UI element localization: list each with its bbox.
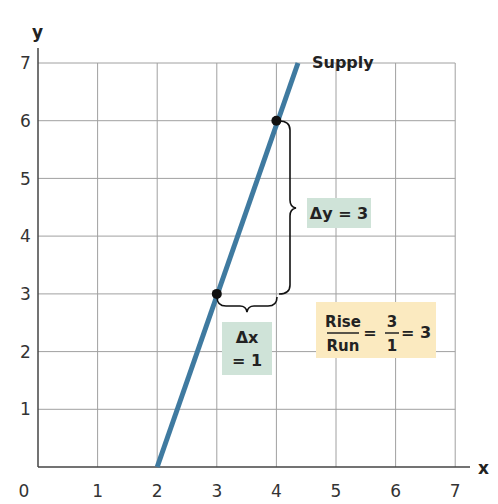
y-tick-4: 4 [20, 226, 31, 246]
y-tick-3: 3 [20, 284, 31, 304]
delta-x-box: Δx = 1 [222, 322, 272, 375]
x-tick-7: 7 [450, 481, 461, 501]
rise-run-box: Rise Run = 3 1 = 3 [316, 302, 436, 358]
supply-label: Supply [312, 53, 374, 72]
y-tick-6: 6 [20, 111, 31, 131]
y-tick-7: 7 [20, 53, 31, 73]
equals-sign: = [363, 323, 376, 342]
numerator: 3 [387, 313, 397, 331]
delta-y-brace [279, 121, 296, 294]
y-tick-2: 2 [20, 342, 31, 362]
y-tick-5: 5 [20, 169, 31, 189]
y-axis-ticks: 7 6 5 4 3 2 1 [20, 53, 31, 419]
chart-svg: 7 6 5 4 3 2 1 0 1 2 3 4 5 6 7 y x Supply… [0, 0, 498, 504]
rise-text: Rise [325, 313, 361, 331]
delta-x-text-1: Δx [236, 328, 259, 347]
x-tick-3: 3 [211, 481, 222, 501]
x-tick-5: 5 [331, 481, 342, 501]
y-tick-1: 1 [20, 399, 31, 419]
axes [38, 48, 470, 467]
delta-y-text: Δy = 3 [310, 204, 369, 223]
x-tick-0: 0 [19, 481, 30, 501]
x-tick-6: 6 [390, 481, 401, 501]
x-tick-1: 1 [92, 481, 103, 501]
delta-y-box: Δy = 3 [307, 198, 371, 228]
x-tick-2: 2 [152, 481, 163, 501]
x-axis-label: x [478, 458, 489, 478]
x-axis-ticks: 0 1 2 3 4 5 6 7 [19, 481, 461, 501]
run-text: Run [327, 337, 360, 355]
y-axis-label: y [32, 22, 43, 42]
x-tick-4: 4 [271, 481, 282, 501]
delta-x-text-2: = 1 [232, 351, 262, 370]
delta-x-brace [217, 297, 277, 312]
grid [38, 63, 455, 467]
result-text: = 3 [401, 323, 431, 342]
denominator: 1 [387, 337, 397, 355]
